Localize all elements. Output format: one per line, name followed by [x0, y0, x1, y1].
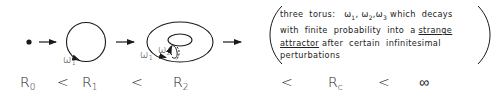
two-torus [147, 22, 213, 62]
r2-label: R2 [173, 75, 188, 92]
less-than-1: < [57, 75, 69, 89]
infinity-label: ∞ [419, 75, 429, 89]
attractor-term: attractor [280, 38, 319, 48]
fixed-point-dot [26, 39, 31, 44]
r1-label: R1 [82, 75, 97, 92]
omega-1-circle-label: ω1 [63, 55, 76, 67]
r0-label: R0 [20, 75, 35, 92]
strange-term: strange [419, 25, 453, 35]
omega-1-torus-label: ω1 [140, 50, 153, 62]
rc-label: Rc [328, 75, 343, 92]
less-than-4: < [378, 75, 390, 89]
omega-2-torus-label: ω2 [158, 45, 171, 57]
description-line-3: attractor after certain infinitesimal [280, 37, 486, 50]
less-than-2: < [131, 75, 143, 89]
description-line-2: with finite probability into a strange [280, 24, 486, 37]
description-line-1: three torus: ω1, ω2,ω3 which decays [280, 8, 486, 24]
three-torus-description: three torus: ω1, ω2,ω3 which decays with… [280, 8, 486, 62]
description-line-4: perturbations [280, 49, 486, 62]
route-to-chaos-diagram: ω1 ω1 ω2 three torus: ω1, ω2,ω3 which de… [0, 0, 497, 99]
less-than-3: < [281, 75, 293, 89]
